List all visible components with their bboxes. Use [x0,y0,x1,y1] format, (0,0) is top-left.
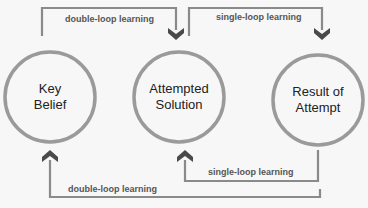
node-label-line: Key [5,81,95,97]
edge-label-top-double-loop: double-loop learning [65,14,154,24]
node-label-attempted-solution: Attempted Solution [134,81,224,113]
edge-label-bottom-single-loop: single-loop learning [208,167,294,177]
node-label-line: Solution [134,97,224,113]
node-label-key-belief: Key Belief [5,81,95,113]
edge-label-bottom-double-loop: double-loop learning [68,184,157,194]
node-label-line: Attempt [273,100,363,116]
node-label-line: Result of [273,84,363,100]
node-label-line: Belief [5,97,95,113]
edge-label-top-single-loop: single-loop learning [216,12,302,22]
node-label-result-of-attempt: Result of Attempt [273,84,363,116]
node-label-line: Attempted [134,81,224,97]
